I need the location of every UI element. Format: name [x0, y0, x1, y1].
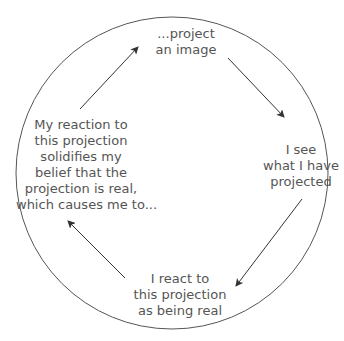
arrow-top-to-right [228, 58, 284, 117]
node-bottom-label: I react to this projection as being real [120, 271, 240, 319]
arrow-left-to-top [80, 47, 138, 109]
node-right-label: I see what I have projected [256, 142, 344, 190]
node-left-label: My reaction to this projection solidifie… [16, 117, 146, 213]
node-top-label: ...project an image [136, 26, 236, 58]
arrow-bottom-to-left [68, 221, 125, 278]
